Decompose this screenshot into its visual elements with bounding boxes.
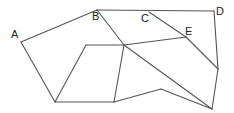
edge-o-t [124,45,212,109]
edge-e-u [186,37,218,69]
edge-a-q [21,42,55,102]
label-b: B [92,10,99,22]
edge-o-r [114,45,124,102]
label-c: C [141,12,149,24]
edge-s-t [161,89,212,109]
edge-p-q [55,45,86,102]
edge-b-o [97,10,124,45]
label-d: D [216,5,224,17]
edge-d-u [214,11,218,69]
edge-a-b [21,10,97,42]
label-e: E [185,25,192,37]
geometry-diagram: A B C D E [0,0,234,113]
edge-u-t [212,69,218,109]
edge-o-e [124,37,186,45]
edge-b-d [97,10,214,11]
edge-c-e [149,12,186,37]
label-a: A [11,28,19,40]
edge-r-s [114,89,161,102]
